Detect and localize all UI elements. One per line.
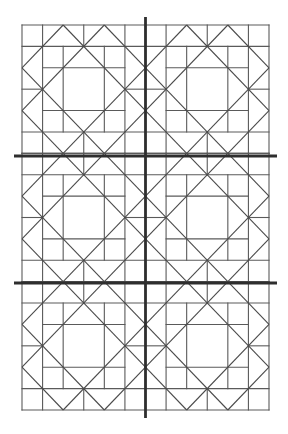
quilt-block (146, 153, 270, 281)
quilt-pattern-diagram (0, 0, 288, 434)
quilt-block (22, 25, 146, 153)
quilt-block (146, 282, 270, 410)
quilt-block (22, 153, 146, 281)
quilt-block (146, 25, 270, 153)
quilt-block (22, 282, 146, 410)
